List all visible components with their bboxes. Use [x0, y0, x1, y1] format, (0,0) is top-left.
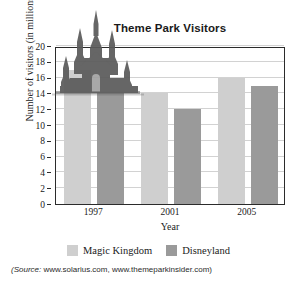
y-tick-mark [47, 141, 51, 142]
bar-disneyland-2001 [174, 109, 201, 204]
source-note: (Source: www.solarius.com, www.themepark… [11, 265, 212, 274]
y-tick-label: 4 [21, 169, 45, 179]
y-tick-mark [47, 62, 51, 63]
legend-entry-magic-kingdom[interactable]: Magic Kingdom [67, 245, 152, 256]
x-tick-label: 1997 [58, 207, 128, 217]
y-tick-label: 6 [21, 153, 45, 163]
y-tick-mark [47, 204, 51, 205]
chart-figure: Theme Park Visitors Number of visitors (… [0, 0, 297, 284]
bar-disneyland-2005 [251, 86, 278, 205]
bar-disneyland-1997 [97, 93, 124, 204]
y-tick-mark [47, 157, 51, 158]
y-tick-mark [47, 188, 51, 189]
plot-area [55, 47, 285, 205]
legend-swatch [67, 245, 78, 256]
y-tick-label: 20 [21, 43, 45, 53]
x-axis-title: Year [55, 221, 285, 232]
y-tick-label: 18 [21, 58, 45, 68]
y-tick-mark [47, 109, 51, 110]
y-tick-label: 2 [21, 185, 45, 195]
source-prefix: (Source: [11, 265, 41, 274]
chart-legend: Magic KingdomDisneyland [0, 245, 297, 256]
y-tick-mark [47, 93, 51, 94]
y-tick-label: 10 [21, 122, 45, 132]
y-tick-label: 8 [21, 137, 45, 147]
chart-title: Theme Park Visitors [55, 22, 285, 34]
gridline [56, 61, 284, 62]
gridline [56, 45, 284, 46]
y-tick-label: 16 [21, 74, 45, 84]
bar-magic-kingdom-2001 [141, 93, 168, 204]
bar-magic-kingdom-2005 [218, 78, 245, 204]
bar-magic-kingdom-1997 [64, 70, 91, 204]
y-tick-label: 0 [21, 201, 45, 211]
source-text: www.solarius.com, www.themeparkinsider.c… [41, 265, 212, 274]
legend-swatch [166, 245, 177, 256]
legend-label: Disneyland [182, 245, 230, 256]
y-tick-mark [47, 46, 51, 47]
legend-label: Magic Kingdom [83, 245, 152, 256]
x-tick-label: 2001 [135, 207, 205, 217]
y-tick-mark [47, 125, 51, 126]
y-tick-mark [47, 172, 51, 173]
legend-entry-disneyland[interactable]: Disneyland [166, 245, 230, 256]
y-tick-label: 12 [21, 106, 45, 116]
y-tick-label: 14 [21, 90, 45, 100]
y-tick-mark [47, 78, 51, 79]
x-tick-label: 2005 [212, 207, 282, 217]
y-axis-ticks: 02468101214161820 [24, 47, 51, 205]
